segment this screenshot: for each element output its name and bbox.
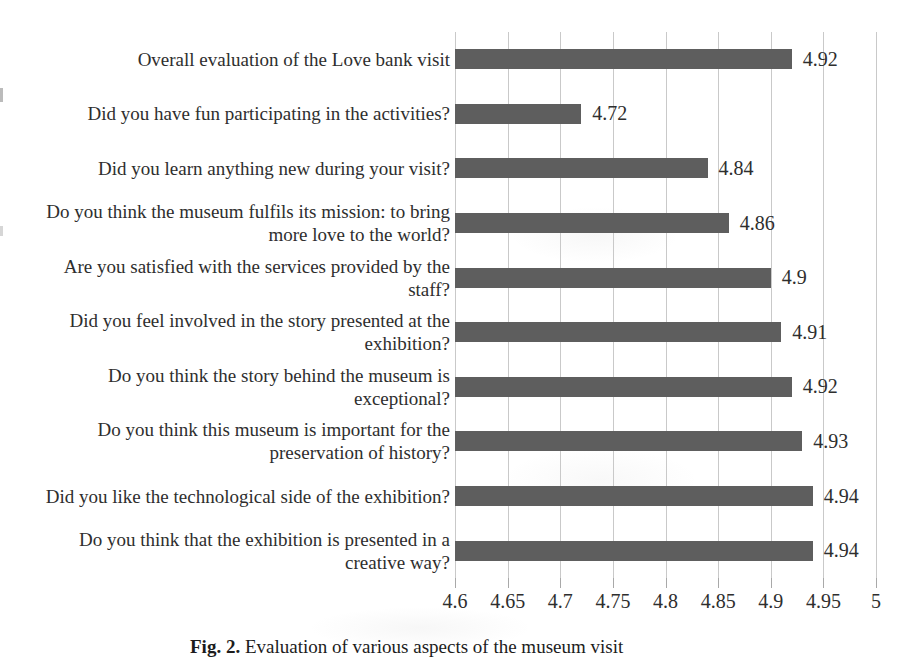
bar-value-label: 4.91: [792, 321, 827, 344]
x-axis-tick-label: 4.9: [758, 589, 783, 613]
bar-row: 4.91: [455, 305, 876, 360]
category-label: Do you think that the exhibition is pres…: [0, 523, 450, 578]
category-label: Did you learn anything new during your v…: [0, 141, 450, 196]
figure-caption-number: Fig. 2.: [190, 636, 240, 657]
x-axis-tick: [823, 578, 824, 588]
gridline: [876, 32, 877, 578]
figure-caption: Fig. 2. Evaluation of various aspects of…: [190, 636, 623, 658]
bar: [455, 104, 581, 124]
bar-row: 4.93: [455, 414, 876, 469]
bar: [455, 377, 792, 397]
bar-value-label: 4.86: [740, 212, 775, 235]
bar-row: 4.84: [455, 141, 876, 196]
bar: [455, 49, 792, 69]
category-label: Did you feel involved in the story prese…: [0, 305, 450, 360]
bar-value-label: 4.94: [824, 485, 859, 508]
x-axis-tick: [613, 578, 614, 588]
category-label: Are you satisfied with the services prov…: [0, 250, 450, 305]
x-axis-tick-label: 4.65: [490, 589, 525, 613]
category-label: Did you have fun participating in the ac…: [0, 87, 450, 142]
bar-value-label: 4.92: [803, 375, 838, 398]
bar: [455, 322, 781, 342]
x-axis-tick-label: 4.85: [701, 589, 736, 613]
bar: [455, 268, 771, 288]
bar-row: 4.94: [455, 469, 876, 524]
category-label: Do you think this museum is important fo…: [0, 414, 450, 469]
bar: [455, 431, 802, 451]
x-axis-tick-label: 4.75: [595, 589, 630, 613]
category-label: Do you think the story behind the museum…: [0, 360, 450, 415]
bar-row: 4.92: [455, 360, 876, 415]
x-axis-tick: [560, 578, 561, 588]
x-axis-tick: [455, 578, 456, 588]
x-axis-tick-label: 4.7: [548, 589, 573, 613]
x-axis-tick-label: 4.8: [653, 589, 678, 613]
category-label: Did you like the technological side of t…: [0, 469, 450, 524]
bar-row: 4.72: [455, 87, 876, 142]
bar-row: 4.94: [455, 523, 876, 578]
bar: [455, 213, 729, 233]
category-label: Do you think the museum fulfils its miss…: [0, 196, 450, 251]
x-axis-tick-labels: 4.64.654.74.754.84.854.94.955: [455, 589, 876, 613]
category-label: Overall evaluation of the Love bank visi…: [0, 32, 450, 87]
x-axis-tick-label: 4.95: [806, 589, 841, 613]
bar-value-label: 4.72: [592, 102, 627, 125]
bar: [455, 486, 813, 506]
x-axis-tick: [508, 578, 509, 588]
bar-value-label: 4.9: [782, 266, 807, 289]
x-axis: [455, 578, 876, 588]
bar-value-label: 4.94: [824, 539, 859, 562]
bar: [455, 158, 708, 178]
bar-value-label: 4.92: [803, 48, 838, 71]
bar-series: 4.924.724.844.864.94.914.924.934.944.94: [455, 32, 876, 578]
x-axis-tick-label: 4.6: [443, 589, 468, 613]
bar-row: 4.86: [455, 196, 876, 251]
category-axis-labels: Overall evaluation of the Love bank visi…: [0, 32, 450, 578]
bar-row: 4.9: [455, 250, 876, 305]
x-axis-tick: [876, 578, 877, 588]
bar-row: 4.92: [455, 32, 876, 87]
x-axis-tick-label: 5: [871, 589, 881, 613]
x-axis-tick: [771, 578, 772, 588]
figure-caption-text: Evaluation of various aspects of the mus…: [240, 636, 623, 657]
bar: [455, 541, 813, 561]
x-axis-tick: [718, 578, 719, 588]
x-axis-tick: [666, 578, 667, 588]
plot-area: 4.924.724.844.864.94.914.924.934.944.94: [455, 32, 876, 578]
bar-value-label: 4.84: [719, 157, 754, 180]
bar-value-label: 4.93: [813, 430, 848, 453]
